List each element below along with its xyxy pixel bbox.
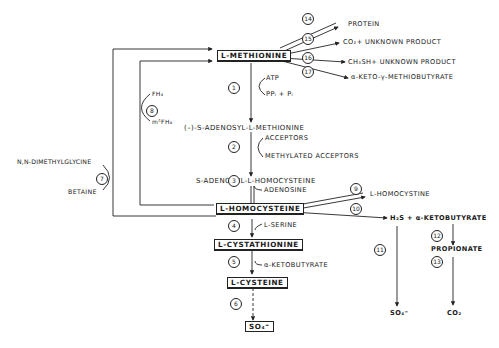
step-2-marker: 2 xyxy=(228,141,240,153)
cofactor-fh4: FH₄ xyxy=(152,91,164,97)
cofactor-m5fh4: m⁵FH₄ xyxy=(152,119,173,125)
step-7-marker: 7 xyxy=(96,173,108,185)
step-4-marker: 4 xyxy=(228,220,240,232)
node-h2s-ketobutyrate: H₂S + α-KETOBUTYRATE xyxy=(390,215,487,222)
cofactor-acceptors: ACCEPTORS xyxy=(265,135,308,142)
step-3-marker: 3 xyxy=(228,175,240,187)
cofactor-adenosine: ADENOSINE xyxy=(264,187,307,194)
node-propionate: PROPIONATE xyxy=(431,246,483,253)
node-s-adenosyl-methionine: (–)-S-ADENOSYL-L-METHIONINE xyxy=(184,125,304,132)
node-l-cysteine: L-CYSTEINE xyxy=(227,277,288,289)
cofactor-betaine: BETAINE xyxy=(68,189,97,195)
step-15-marker: 15 xyxy=(302,33,314,45)
node-l-homocysteine: L-HOMOCYSTEINE xyxy=(216,203,304,215)
node-sulfate-box: SO₄⁼ xyxy=(245,321,274,332)
step-17-marker: 17 xyxy=(302,66,314,78)
step-16-marker: 16 xyxy=(302,52,314,64)
cofactor-atp: ATP xyxy=(266,75,279,82)
step-11-marker: 11 xyxy=(374,244,386,256)
product-ch3sh-unknown: CH₃SH+ UNKNOWN PRODUCT xyxy=(348,59,456,66)
step-12-marker: 12 xyxy=(431,230,443,242)
cofactor-ppi-pi: PPᵢ + Pᵢ xyxy=(266,91,293,98)
cofactor-l-serine: L-SERINE xyxy=(264,222,297,229)
product-protein: PROTEIN xyxy=(348,21,380,28)
step-6-marker: 6 xyxy=(230,298,242,310)
node-co2: CO₂ xyxy=(447,310,462,317)
step-8-marker: 8 xyxy=(146,105,158,117)
node-l-methionine: L-METHIONINE xyxy=(217,50,291,62)
cofactor-methylated-acceptors: METHYLATED ACCEPTORS xyxy=(265,153,359,160)
cofactor-dimethylglycine: N,N-DIMETHYLGLYCINE xyxy=(17,159,91,165)
step-14-marker: 14 xyxy=(302,13,314,25)
step-5-marker: 5 xyxy=(228,256,240,268)
step-10-marker: 10 xyxy=(350,203,362,215)
product-keto-methiobutyrate: α-KETO-γ-METHIOBUTYRATE xyxy=(351,74,453,81)
cofactor-ketobutyrate: α-KETOBUTYRATE xyxy=(264,262,328,269)
node-l-cystathionine: L-CYSTATHIONINE xyxy=(214,239,303,251)
node-s-adenosyl-homocysteine: S-ADENOSYL-L-HOMOCYSTEINE xyxy=(196,178,316,185)
node-l-homocystine: L-HOMOCYSTINE xyxy=(370,191,430,198)
node-sulfate: SO₄⁼ xyxy=(390,310,408,317)
product-co2-unknown: CO₂+ UNKNOWN PRODUCT xyxy=(343,39,441,46)
step-1-marker: 1 xyxy=(228,82,240,94)
step-9-marker: 9 xyxy=(350,183,362,195)
step-13-marker: 13 xyxy=(431,256,443,268)
